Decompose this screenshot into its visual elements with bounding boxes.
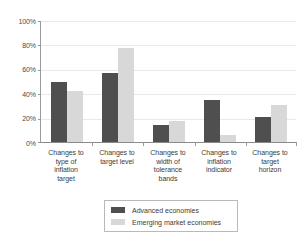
y-tick-label-40: 40% xyxy=(2,91,36,98)
x-axis-label-2: Changes to target level xyxy=(89,149,145,166)
legend-item-advanced-economies[interactable]: Advanced economies xyxy=(111,205,231,215)
y-tick-label-100: 100% xyxy=(2,18,36,25)
x-axis-label-4: Changes to inflation indicator xyxy=(191,149,247,175)
plot-area xyxy=(40,21,296,143)
bar-group-changes-to-width-of-tolerance-bands xyxy=(143,21,194,142)
x-axis-label-1-line-4: target xyxy=(38,175,94,184)
bar-emerging-2[interactable] xyxy=(118,48,134,142)
y-tick-label-0: 0% xyxy=(2,140,36,147)
x-axis-label-2-line-1: Changes to xyxy=(89,149,145,158)
x-axis-label-3-line-2: width of xyxy=(140,158,196,167)
bar-emerging-5[interactable] xyxy=(271,105,287,143)
legend-item-emerging-market-economies[interactable]: Emerging market economies xyxy=(111,217,231,227)
x-axis-label-4-line-3: indicator xyxy=(191,166,247,175)
x-tick-mark-5 xyxy=(296,142,297,146)
y-tick-label-60: 60% xyxy=(2,66,36,73)
x-axis-label-4-line-1: Changes to xyxy=(191,149,247,158)
x-axis-label-2-line-2: target level xyxy=(89,158,145,167)
bar-advanced-1[interactable] xyxy=(51,82,67,143)
x-axis-label-1-line-3: inflation xyxy=(38,166,94,175)
bar-group-changes-to-inflation-indicator xyxy=(195,21,246,142)
y-tick-label-80: 80% xyxy=(2,42,36,49)
legend-label-emerging-market-economies: Emerging market economies xyxy=(132,219,221,226)
x-axis-label-3-line-1: Changes to xyxy=(140,149,196,158)
legend-swatch-advanced-economies xyxy=(111,207,125,213)
bar-group-changes-to-target-horizon xyxy=(246,21,297,142)
bar-chart: 100% 80% 60% 40% 20% 0% xyxy=(0,0,308,243)
x-axis-label-1-line-2: type of xyxy=(38,158,94,167)
y-tick-label-20: 20% xyxy=(2,115,36,122)
x-tick-mark-2 xyxy=(143,142,144,146)
bar-advanced-2[interactable] xyxy=(102,73,118,142)
x-axis-label-5-line-3: horizon xyxy=(242,166,298,175)
bar-emerging-4[interactable] xyxy=(220,135,236,142)
bar-advanced-3[interactable] xyxy=(153,125,169,142)
x-axis-label-5-line-2: target xyxy=(242,158,298,167)
x-axis-label-1-line-1: Changes to xyxy=(38,149,94,158)
bar-group-changes-to-type-of-inflation-target xyxy=(41,21,92,142)
y-tick-mark-0 xyxy=(38,142,41,143)
x-axis-label-1: Changes to type of inflation target xyxy=(38,149,94,183)
x-axis-label-3-line-4: bands xyxy=(140,175,196,184)
x-axis-label-3: Changes to width of tolerance bands xyxy=(140,149,196,183)
bar-emerging-1[interactable] xyxy=(67,91,83,142)
x-axis-label-4-line-2: inflation xyxy=(191,158,247,167)
x-tick-mark-3 xyxy=(195,142,196,146)
legend: Advanced economies Emerging market econo… xyxy=(104,200,238,232)
x-axis-label-5: Changes to target horizon xyxy=(242,149,298,175)
legend-swatch-emerging-market-economies xyxy=(111,219,125,225)
x-tick-mark-1 xyxy=(92,142,93,146)
bar-group-changes-to-target-level xyxy=(92,21,143,142)
bar-advanced-4[interactable] xyxy=(204,100,220,142)
x-axis-label-5-line-1: Changes to xyxy=(242,149,298,158)
legend-label-advanced-economies: Advanced economies xyxy=(132,207,199,214)
x-tick-mark-4 xyxy=(246,142,247,146)
bar-emerging-3[interactable] xyxy=(169,121,185,142)
bar-advanced-5[interactable] xyxy=(255,117,271,142)
x-axis-label-3-line-3: tolerance xyxy=(140,166,196,175)
